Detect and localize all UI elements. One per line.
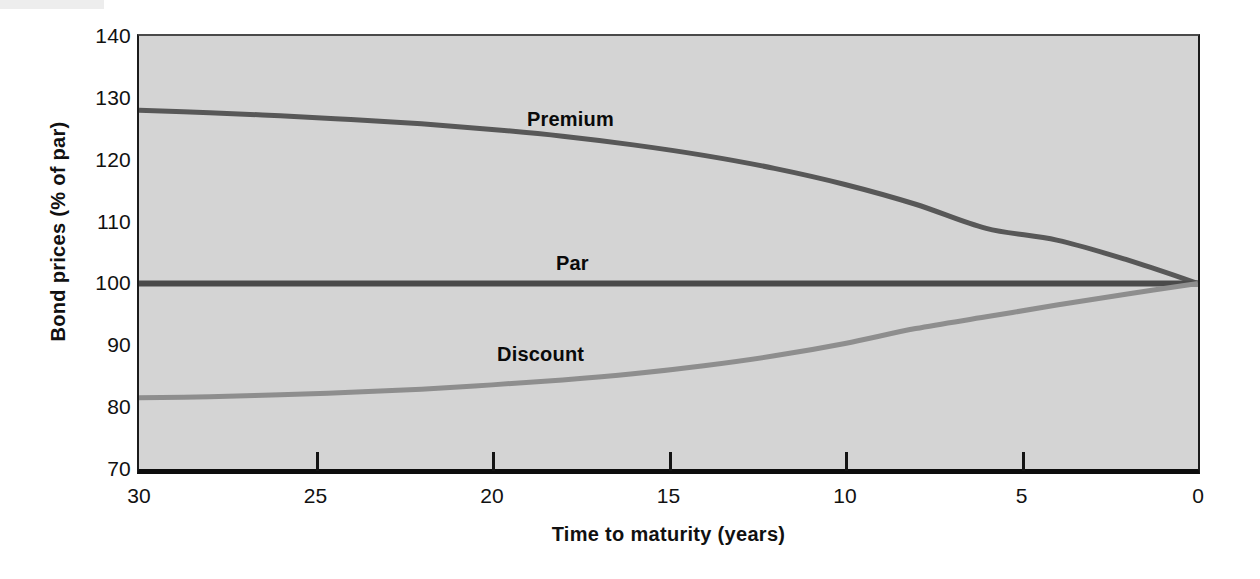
y-axis-tick-label: 130 bbox=[61, 87, 131, 108]
x-axis-tick-label: 5 bbox=[992, 485, 1052, 506]
bond-price-chart-figure: Bond prices (% of par) 14013012011010090… bbox=[0, 0, 1260, 579]
x-axis-tick-label: 20 bbox=[462, 485, 522, 506]
y-axis-tick-label: 70 bbox=[61, 458, 131, 479]
x-axis-tick-mark bbox=[316, 452, 319, 471]
y-axis-tick-label: 140 bbox=[61, 25, 131, 46]
x-axis-tick-mark bbox=[492, 452, 495, 471]
series-annotation-discount: Discount bbox=[497, 343, 584, 366]
y-axis-tick-label: 90 bbox=[61, 334, 131, 355]
x-axis-tick-mark bbox=[1022, 452, 1025, 471]
y-axis-tick-label: 100 bbox=[61, 272, 131, 293]
x-axis-title: Time to maturity (years) bbox=[137, 523, 1200, 546]
x-axis-tick-label: 10 bbox=[815, 485, 875, 506]
curve-premium bbox=[139, 110, 1198, 283]
x-axis-tick-label: 0 bbox=[1168, 485, 1228, 506]
y-axis-tick-label: 80 bbox=[61, 396, 131, 417]
y-axis-tick-label: 110 bbox=[61, 211, 131, 232]
x-axis-tick-mark bbox=[669, 452, 672, 471]
x-axis-tick-mark bbox=[845, 452, 848, 471]
x-axis-tick-label: 30 bbox=[109, 485, 169, 506]
series-annotation-premium: Premium bbox=[527, 108, 614, 131]
plot-area bbox=[137, 34, 1200, 474]
curve-discount bbox=[139, 283, 1198, 397]
x-axis-tick-label: 25 bbox=[286, 485, 346, 506]
plot-curves bbox=[139, 36, 1198, 469]
series-annotation-par: Par bbox=[556, 252, 589, 275]
x-axis-tick-label: 15 bbox=[639, 485, 699, 506]
y-axis-tick-label: 120 bbox=[61, 149, 131, 170]
